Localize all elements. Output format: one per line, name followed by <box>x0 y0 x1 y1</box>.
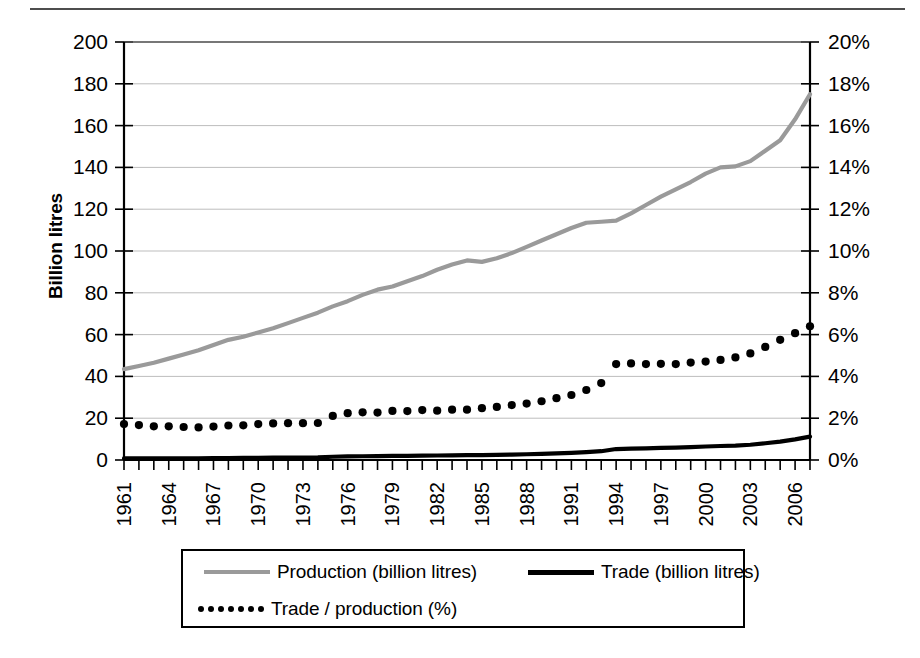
left-tick-label: 0 <box>96 448 108 471</box>
right-tick-label: 16% <box>828 114 870 137</box>
series-point-ratio <box>388 407 396 415</box>
left-tick-label: 20 <box>85 406 108 429</box>
legend-label-production: Production (billion litres) <box>277 561 477 583</box>
series-point-ratio <box>284 419 292 427</box>
right-tick-label: 8% <box>828 281 858 304</box>
x-tick-label: 1982 <box>426 482 448 527</box>
legend-item-ratio: Trade / production (%) <box>195 590 457 628</box>
series-point-ratio <box>254 420 262 428</box>
series-point-ratio <box>478 404 486 412</box>
legend-item-trade: Trade (billion litres) <box>525 553 760 591</box>
left-tick-label: 200 <box>73 30 108 53</box>
series-point-ratio <box>687 359 695 367</box>
series-point-ratio <box>627 359 635 367</box>
x-tick-label: 1961 <box>113 482 135 527</box>
series-point-ratio <box>269 419 277 427</box>
solid-gray-line-icon <box>201 563 273 581</box>
x-tick-label: 1979 <box>381 482 403 527</box>
right-tick-label: 10% <box>828 239 870 262</box>
series-point-ratio <box>612 360 620 368</box>
right-tick-label: 0% <box>828 448 858 471</box>
series-point-ratio <box>180 423 188 431</box>
series-point-ratio <box>344 409 352 417</box>
right-tick-label: 4% <box>828 364 858 387</box>
series-point-ratio <box>537 397 545 405</box>
series-point-ratio <box>135 421 143 429</box>
left-axis-labels: 020406080100120140160180200 <box>73 30 108 471</box>
data-series <box>120 94 814 458</box>
series-point-ratio <box>359 408 367 416</box>
series-point-ratio <box>373 408 381 416</box>
x-tick-label: 1988 <box>516 482 538 527</box>
series-point-ratio <box>329 412 337 420</box>
legend-row-1: Production (billion litres) Trade (billi… <box>183 553 743 591</box>
right-tick-label: 14% <box>828 155 870 178</box>
right-tick-label: 20% <box>828 30 870 53</box>
series-point-ratio <box>239 421 247 429</box>
solid-black-line-icon <box>525 563 597 581</box>
left-tick-label: 120 <box>73 197 108 220</box>
right-tick-label: 12% <box>828 197 870 220</box>
series-point-ratio <box>716 356 724 364</box>
series-line-trade <box>124 437 810 459</box>
series-point-ratio <box>418 406 426 414</box>
x-tick-label: 1964 <box>158 482 180 527</box>
series-point-ratio <box>672 360 680 368</box>
left-tick-label: 160 <box>73 114 108 137</box>
left-tick-label: 180 <box>73 72 108 95</box>
left-tick-label: 80 <box>85 281 108 304</box>
series-point-ratio <box>150 422 158 430</box>
right-tick-label: 18% <box>828 72 870 95</box>
x-tick-label: 1985 <box>471 482 493 527</box>
series-point-ratio <box>657 360 665 368</box>
x-tick-label: 1973 <box>292 482 314 527</box>
x-axis-ticks <box>124 460 810 470</box>
series-point-ratio <box>597 379 605 387</box>
series-point-ratio <box>746 349 754 357</box>
x-tick-label: 2003 <box>739 482 761 527</box>
series-point-ratio <box>165 422 173 430</box>
series-point-ratio <box>523 399 531 407</box>
x-tick-label: 1970 <box>247 482 269 527</box>
top-divider-rule <box>30 8 905 10</box>
x-tick-label: 2006 <box>784 482 806 527</box>
series-point-ratio <box>642 360 650 368</box>
series-line-production <box>124 94 810 369</box>
left-tick-label: 40 <box>85 364 108 387</box>
series-point-ratio <box>194 423 202 431</box>
chart-page: Billion litres 0204060801001201401601802… <box>0 0 920 658</box>
series-point-ratio <box>702 357 710 365</box>
series-point-ratio <box>433 407 441 415</box>
x-axis-labels: 1961196419671970197319761979198219851988… <box>113 482 806 527</box>
legend-label-trade: Trade (billion litres) <box>601 561 760 583</box>
dotted-black-line-icon <box>195 600 267 618</box>
x-tick-label: 1991 <box>560 482 582 527</box>
right-tick-label: 6% <box>828 323 858 346</box>
series-point-ratio <box>448 406 456 414</box>
series-point-ratio <box>806 322 814 330</box>
series-point-ratio <box>731 353 739 361</box>
x-tick-label: 1967 <box>202 482 224 527</box>
series-point-ratio <box>209 422 217 430</box>
x-tick-label: 1994 <box>605 482 627 527</box>
series-point-ratio <box>403 407 411 415</box>
series-point-ratio <box>582 386 590 394</box>
legend-row-2: Trade / production (%) <box>183 590 743 628</box>
left-tick-label: 100 <box>73 239 108 262</box>
series-point-ratio <box>508 401 516 409</box>
series-point-ratio <box>299 419 307 427</box>
x-tick-label: 1976 <box>337 482 359 527</box>
left-tick-label: 140 <box>73 155 108 178</box>
right-axis-labels: 0%2%4%6%8%10%12%14%16%18%20% <box>828 30 870 471</box>
series-point-ratio <box>761 343 769 351</box>
chart-container: Billion litres 0204060801001201401601802… <box>0 20 920 550</box>
chart-plot: 020406080100120140160180200 0%2%4%6%8%10… <box>0 20 920 550</box>
x-tick-label: 1997 <box>650 482 672 527</box>
series-point-ratio <box>776 336 784 344</box>
series-point-ratio <box>567 391 575 399</box>
legend-item-production: Production (billion litres) <box>201 553 477 591</box>
series-point-ratio <box>463 406 471 414</box>
legend-label-ratio: Trade / production (%) <box>271 598 457 620</box>
chart-legend: Production (billion litres) Trade (billi… <box>181 549 745 628</box>
series-point-ratio <box>493 403 501 411</box>
